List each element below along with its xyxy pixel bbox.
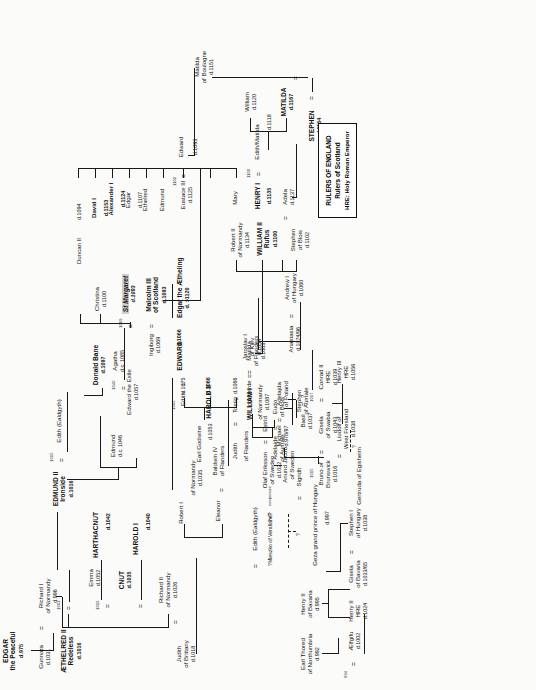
person-detail: of Boulogne [200, 51, 207, 84]
person-edgar-sc: Alexander I [108, 178, 115, 220]
person-name: HAROLD I [132, 523, 139, 555]
connector [196, 558, 197, 654]
person-gertruda: Gertruda of Egisheim [356, 442, 363, 510]
marriage-date: 1002 [57, 600, 62, 610]
connector [168, 614, 169, 628]
connector [118, 468, 119, 480]
marriage-symbol: = [318, 450, 325, 454]
person-death: d.975 [18, 644, 24, 658]
person-name: Edith (Ealdgyth) [55, 399, 62, 442]
person-name: Basil [299, 414, 306, 427]
person-mieszko: ?Mieszko of Vendland? [268, 522, 274, 566]
person-death: d.1120 [251, 94, 257, 110]
connector [250, 118, 251, 132]
connector [252, 427, 274, 428]
person-harthacnut: HARTHACNUT [92, 508, 99, 562]
connector [141, 560, 142, 600]
person-detail: the Peaceful [9, 632, 16, 671]
person-ingiborg: Ingiborg d.1069 [148, 328, 162, 362]
person-detail: of Northumbria [306, 634, 313, 674]
connector [146, 168, 147, 178]
connector [100, 458, 101, 468]
connector [312, 78, 313, 92]
person-detail: of Normandy [236, 223, 243, 258]
person-name: Ingiborg [147, 334, 154, 356]
connector [172, 378, 173, 490]
person-death: d.c. 1046 [117, 435, 123, 457]
person-death: d.1097 [100, 357, 106, 374]
person-detail: Rufus [263, 230, 270, 249]
person-name: Edmund [109, 435, 116, 458]
person-name: Adela [281, 189, 288, 205]
person-name: David I [90, 198, 97, 218]
person-earl-thored: Earl Thored of Northumbria d.992 [300, 628, 320, 680]
person-detail: of Normandy [164, 573, 171, 608]
person-name: Edward the Exile [125, 369, 132, 415]
connector [212, 77, 308, 78]
person-detail: of Bavaria [354, 560, 361, 587]
person-harthacnut-death: d.1042 [105, 513, 111, 530]
person-edmund-ironside: EDMUND II Ironside d.1016 [52, 466, 74, 512]
marriage-symbol: = [296, 496, 303, 500]
person-detail: of Sweden [268, 456, 275, 485]
person-name: Michael [275, 426, 282, 447]
person-william-adelin: William d.1120 [244, 84, 258, 120]
person-name: Alexander I [107, 183, 114, 216]
person-earl-godwine: Earl Godwine [196, 420, 203, 468]
person-death: d.1026 [172, 582, 178, 599]
connector [340, 523, 348, 524]
person-geza-death: d.997 [324, 496, 330, 540]
person-name: STEPHEN [308, 110, 315, 141]
connector-dashed [288, 531, 296, 532]
marriage-symbol: = [282, 216, 289, 220]
person-death: d.1100 [101, 291, 107, 307]
person-baldwin4: Baldwin IV of Flanders [212, 438, 226, 484]
person-edgar-atheling-death: d.1094 [76, 204, 82, 221]
person-henry2-hre: Henry II HRE d.1024 [348, 594, 368, 628]
person-robert3: Robert II of Normandy d.1134 [230, 218, 250, 262]
person-detail: HRE [324, 371, 331, 384]
marriage-symbol: = [300, 402, 307, 406]
person-ethelred-sc: Edgar [125, 178, 132, 222]
marriage-symbol: = [246, 370, 253, 374]
person-name: Edmund [158, 189, 165, 212]
person-christina: Christina d.1100 [94, 282, 108, 316]
connector [184, 537, 196, 538]
person-edward-death: d.1066 [176, 329, 182, 346]
person-death: d.1102 [304, 232, 310, 248]
connector [95, 168, 96, 178]
marriage-symbol: = [255, 172, 262, 176]
connector [274, 420, 275, 428]
person-detail: of Sweden [288, 451, 295, 480]
person-harold1: HAROLD I [132, 518, 139, 560]
person-godwine-death: d.1053 [207, 424, 213, 441]
person-name: WILLIAM II [256, 222, 263, 256]
person-andrew1: Andrew I of Hungary d.1060 [284, 266, 304, 310]
person-edith-ealdgyth: Edith (Ealdgyth) [56, 390, 63, 452]
person-name: Ælfgifu [347, 632, 354, 651]
person-estrid: Estrid [262, 412, 269, 436]
person-olaf-eriksson: Olaf Eriksson of Sweden d.1022 [262, 446, 282, 494]
person-death: d.1002 [355, 633, 361, 650]
person-death: d.995 [314, 597, 320, 611]
marriage-date: 1015 [310, 468, 315, 478]
connector [69, 570, 70, 602]
marriage-date: 1015 [50, 452, 55, 462]
connector [338, 638, 339, 654]
person-death: d.1093 [130, 286, 136, 303]
marriage-symbol: = [252, 564, 259, 568]
person-edgar-atheling: Duncan II [76, 222, 83, 280]
connector [136, 458, 137, 468]
person-name: St Margaret [122, 274, 129, 314]
marriage-date: 1017 [310, 392, 315, 402]
marriage-symbol: = [58, 458, 65, 462]
person-name: Duncan II [75, 238, 82, 264]
person-name: Earl Godwine [195, 426, 202, 463]
person-name: Mary [231, 191, 238, 205]
person-death: d.1052 [95, 570, 101, 587]
connector [300, 302, 301, 350]
connector [322, 653, 338, 654]
connector [272, 428, 273, 438]
person-adelajda: Adelajda of Poland [276, 374, 290, 414]
connector [80, 323, 130, 324]
